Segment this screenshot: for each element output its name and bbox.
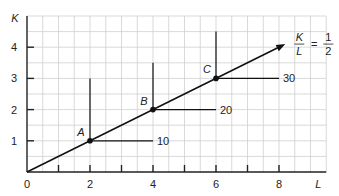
- ratio-denominator: L: [296, 45, 302, 57]
- y-tick-label: 2: [11, 104, 17, 116]
- isoquant-C: C30: [203, 32, 295, 85]
- y-axis-label: K: [11, 12, 19, 24]
- expansion-ray: KL=12: [27, 31, 333, 172]
- ratio-value-denominator: 2: [325, 45, 331, 57]
- chart: A10B20C30 KL=12 024681234LK: [0, 0, 339, 196]
- ratio-numerator: K: [296, 31, 304, 43]
- x-axis-label: L: [315, 178, 321, 190]
- x-tick-label: 4: [150, 178, 156, 190]
- x-tick-label: 8: [276, 178, 282, 190]
- point-label: C: [203, 63, 211, 75]
- ratio-value-numerator: 1: [325, 31, 331, 43]
- axis-labels: 024681234LK: [11, 12, 322, 190]
- arrow-head-icon: [276, 44, 286, 51]
- point-label: B: [140, 95, 147, 107]
- output-label: 30: [283, 72, 295, 84]
- point-label: A: [76, 126, 84, 138]
- x-tick-label: 6: [213, 178, 219, 190]
- y-tick-label: 3: [11, 72, 17, 84]
- isoquant-A: A10: [76, 78, 169, 146]
- y-tick-label: 4: [11, 41, 17, 53]
- ray-line: [27, 46, 281, 172]
- isoquants: A10B20C30: [76, 32, 295, 147]
- grid: [27, 16, 326, 172]
- equals-sign: =: [311, 38, 317, 50]
- y-tick-label: 1: [11, 135, 17, 147]
- x-tick-label: 0: [24, 178, 30, 190]
- output-label: 20: [220, 104, 232, 116]
- output-label: 10: [157, 135, 169, 147]
- x-tick-label: 2: [87, 178, 93, 190]
- isoquant-B: B20: [140, 63, 232, 116]
